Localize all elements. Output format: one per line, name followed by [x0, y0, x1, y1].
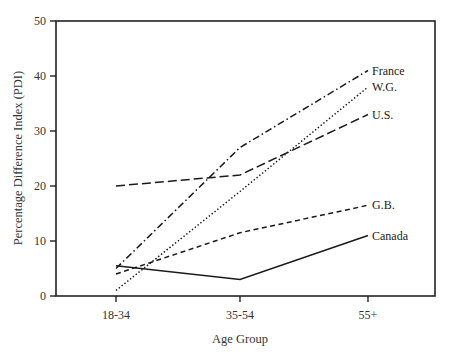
y-tick-label: 50 — [34, 14, 46, 28]
x-axis-title: Age Group — [212, 332, 268, 346]
y-tick-label: 10 — [34, 234, 46, 248]
plot-frame — [56, 21, 435, 296]
x-axis: 18-3435-5455+ — [102, 296, 378, 322]
line-chart: 01020304050 18-3435-5455+ FranceW.G.U.S.… — [0, 0, 452, 364]
y-tick-label: 30 — [34, 124, 46, 138]
y-axis-title: Percentage Difference Index (PDI) — [11, 71, 25, 245]
y-tick-label: 0 — [40, 289, 46, 303]
series-labels: FranceW.G.U.S.G.B.Canada — [372, 64, 409, 243]
series-label: Canada — [372, 229, 409, 243]
x-tick-label: 18-34 — [102, 308, 130, 322]
series-line-wg — [116, 87, 368, 291]
series-line-france — [116, 71, 368, 269]
y-tick-label: 20 — [34, 179, 46, 193]
series-line-us — [116, 115, 368, 187]
series-label: G.B. — [372, 198, 395, 212]
x-tick-label: 35-54 — [226, 308, 254, 322]
series-label: U.S. — [372, 108, 393, 122]
series-line-canada — [116, 236, 368, 280]
series-line-gb — [116, 205, 368, 274]
series-label: France — [372, 64, 405, 78]
x-tick-label: 55+ — [359, 308, 378, 322]
series-lines — [116, 71, 368, 291]
y-axis: 01020304050 — [34, 14, 56, 303]
y-tick-label: 40 — [34, 69, 46, 83]
series-label: W.G. — [372, 80, 397, 94]
